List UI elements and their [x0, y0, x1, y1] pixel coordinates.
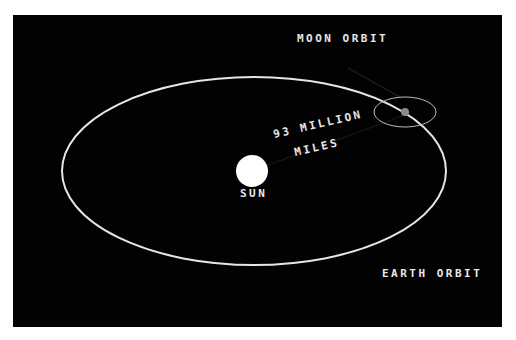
- moon-orbit-label: MOON ORBIT: [297, 32, 388, 45]
- earth-icon: [401, 108, 409, 116]
- sun-icon: [236, 155, 268, 187]
- solar-system-diagram: [0, 0, 516, 340]
- moon-orbit-pointer: [348, 68, 400, 97]
- sun-label: SUN: [240, 187, 267, 200]
- earth-orbit-label: EARTH ORBIT: [382, 267, 482, 280]
